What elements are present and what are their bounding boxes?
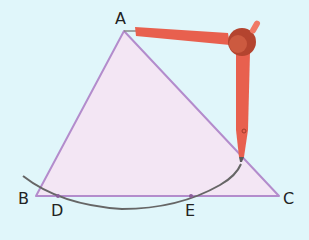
diagram-canvas bbox=[0, 0, 309, 240]
label-a: A bbox=[115, 11, 126, 27]
label-c: C bbox=[283, 191, 294, 207]
label-d: D bbox=[51, 203, 63, 219]
label-e: E bbox=[185, 203, 195, 219]
point-d-marker bbox=[56, 194, 60, 198]
label-b: B bbox=[18, 191, 29, 207]
point-e-marker bbox=[189, 194, 193, 198]
